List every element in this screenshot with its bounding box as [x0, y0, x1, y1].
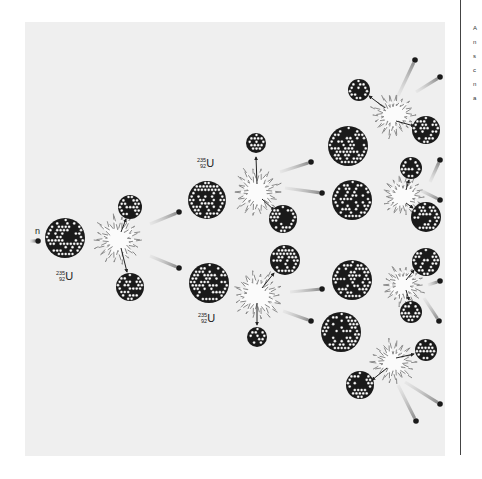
isotope-label-gen1: 23592U	[56, 270, 73, 282]
neutron-icon	[308, 318, 314, 324]
neutron-trail	[427, 280, 437, 286]
neutron-trail	[285, 186, 319, 194]
neutron-icon	[436, 318, 442, 324]
neutron-trail	[404, 381, 438, 404]
neutron-icon	[176, 209, 182, 215]
nucleus-frag-2a	[246, 133, 266, 153]
neutron-label: n	[35, 226, 40, 236]
neutron-trail	[290, 288, 319, 294]
nucleus-frag-3d	[411, 202, 441, 232]
nucleus-u235-gen3-c	[332, 260, 372, 300]
caption-text-fragment: A n s c n a	[473, 21, 482, 105]
neutron-icon	[412, 57, 418, 63]
neutron-trail	[30, 239, 35, 242]
nucleus-frag-3e	[412, 248, 440, 276]
nucleus-u235-gen2-bottom	[189, 263, 229, 303]
neutron-trail	[429, 162, 441, 183]
neutron-trail	[419, 189, 438, 201]
column-divider	[460, 0, 461, 455]
neutron-icon	[437, 197, 443, 203]
neutron-trail	[280, 161, 309, 173]
neutron-trail	[149, 255, 176, 269]
nucleus-u235-gen3-a	[328, 126, 368, 166]
neutron-icon	[35, 238, 41, 244]
nucleus-frag-3h	[346, 371, 374, 399]
fission-burst-icon	[94, 213, 142, 264]
nucleus-frag-2d	[247, 327, 267, 347]
neutron-icon	[437, 157, 443, 163]
neutron-trail	[397, 384, 417, 419]
element-symbol: U	[206, 158, 214, 169]
neutron-icon	[437, 74, 443, 80]
isotope-numbers: 23592	[198, 312, 207, 324]
nucleus-frag-2b	[269, 205, 297, 233]
nucleus-frag-1b	[116, 273, 144, 301]
nucleus-frag-3c	[400, 157, 422, 179]
neutron-icon	[437, 401, 443, 407]
nucleus-frag-3b	[412, 116, 440, 144]
fission-burst-icon	[234, 271, 282, 319]
isotope-label-gen2-top: 23592U	[197, 157, 214, 169]
nucleus-frag-3f	[400, 301, 422, 323]
nucleus-frag-3a	[348, 79, 370, 101]
nucleus-u235-gen2-top	[188, 181, 226, 219]
fragment-arrows	[121, 96, 414, 380]
nucleus-u235-gen3-b	[332, 180, 372, 220]
neutron-trail	[397, 62, 416, 97]
element-symbol: U	[65, 271, 73, 282]
element-symbol: U	[207, 313, 215, 324]
nucleus-u235-gen3-d	[321, 312, 361, 352]
neutron-icon	[176, 265, 182, 271]
isotope-numbers: 23592	[56, 270, 65, 282]
neutron-trail	[282, 309, 308, 321]
arrow-icon	[372, 368, 387, 380]
neutron-trail	[415, 77, 438, 93]
neutron-icon	[308, 159, 314, 165]
nucleus-frag-3g	[415, 339, 437, 361]
neutron-icon	[413, 418, 419, 424]
nucleus-frag-2c	[270, 245, 300, 275]
neutron-trail	[423, 297, 439, 319]
neutron-icon	[319, 190, 325, 196]
isotope-numbers: 23592	[197, 157, 206, 169]
nucleus-frag-1a	[118, 195, 142, 219]
isotope-label-gen2-bottom: 23592U	[198, 312, 215, 324]
neutron-icon	[437, 278, 443, 284]
neutron-icon	[319, 286, 325, 292]
neutron-trail	[149, 212, 176, 226]
nucleus-u235-gen1	[45, 218, 85, 258]
fission-burst-icon	[371, 94, 417, 139]
